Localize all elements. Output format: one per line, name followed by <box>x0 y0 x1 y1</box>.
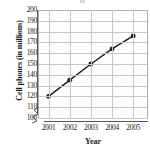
chart-screenshot: Cell phones (in millions) 10011012013014… <box>0 0 150 153</box>
y-axis-tick-label: 200 <box>14 6 37 14</box>
crop-artifact <box>80 0 85 3</box>
y-axis-line <box>37 10 38 113</box>
plot-area <box>38 10 148 118</box>
gridline-horizontal <box>38 42 148 43</box>
gridline-horizontal <box>38 96 148 97</box>
gridline-vertical <box>112 10 113 118</box>
gridline-vertical <box>91 10 92 118</box>
gridline-vertical-edge <box>147 10 148 118</box>
gridline-horizontal <box>38 64 148 65</box>
gridline-vertical <box>70 10 71 118</box>
y-axis-tick-label: 170 <box>14 39 37 47</box>
gridline-horizontal <box>38 21 148 22</box>
y-axis-tick-label: 140 <box>14 71 37 79</box>
y-axis-tick-label: 120 <box>14 93 37 101</box>
gridline-horizontal <box>38 32 148 33</box>
y-axis-tick-labels: 100110120130140150160170180190200 <box>14 10 37 118</box>
x-axis-tick-label: 2005 <box>120 123 146 132</box>
gridline-vertical <box>133 10 134 118</box>
gridline-horizontal <box>38 10 148 11</box>
gridline-horizontal <box>38 107 148 108</box>
y-axis-tick-label: 190 <box>14 17 37 25</box>
y-axis-tick-label: 160 <box>14 49 37 57</box>
gridline-vertical-edge <box>38 10 39 118</box>
gridline-horizontal <box>38 75 148 76</box>
x-axis-title: Year <box>38 137 148 146</box>
x-axis-tick-labels: 20012002200320042005 <box>38 123 148 135</box>
y-axis-tick-label: 130 <box>14 82 37 90</box>
y-axis-tick-label: 180 <box>14 28 37 36</box>
y-axis-tick-label: 150 <box>14 60 37 68</box>
gridline-horizontal <box>38 86 148 87</box>
axis-break-icon <box>31 107 47 124</box>
gridline-horizontal <box>38 53 148 54</box>
gridline-vertical <box>49 10 50 118</box>
gridline-horizontal <box>38 118 148 119</box>
x-axis-line <box>44 121 148 122</box>
